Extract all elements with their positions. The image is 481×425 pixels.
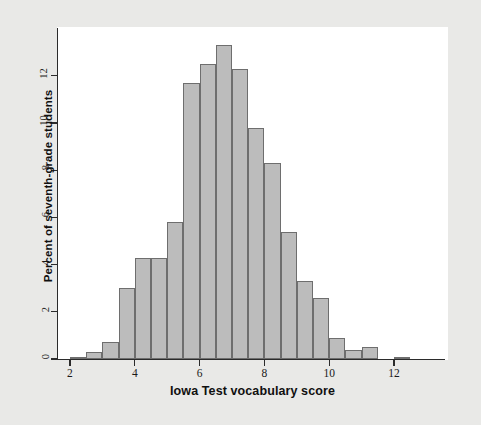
x-tick-label-6: 6 [188, 367, 212, 379]
y-tick-label-4: 4 [0, 257, 48, 268]
y-axis-line [57, 28, 58, 360]
y-axis-title: Percent of seventh-grade students [42, 46, 54, 326]
histogram-bar [102, 342, 118, 359]
x-tick-8 [264, 360, 265, 366]
histogram-bar [119, 288, 135, 359]
histogram-bar [167, 222, 183, 359]
x-axis-title: Iowa Test vocabulary score [57, 384, 448, 398]
histogram-bar [297, 281, 313, 359]
histogram-bar [394, 357, 410, 359]
y-tick-label-text: 0 [40, 354, 51, 359]
x-tick-2 [69, 360, 70, 366]
y-tick-label-12: 12 [0, 68, 48, 79]
histogram-bar [216, 45, 232, 359]
y-tick-label-6: 6 [0, 209, 48, 220]
y-tick-label-10: 10 [0, 115, 48, 126]
x-tick-label-8: 8 [252, 367, 276, 379]
histogram-bar [232, 69, 248, 359]
y-tick-label-8: 8 [0, 162, 48, 173]
x-tick-label-10: 10 [317, 367, 341, 379]
histogram-bar [200, 64, 216, 359]
y-tick-0 [51, 358, 57, 359]
histogram-bar [183, 83, 199, 359]
histogram-bar [151, 258, 167, 359]
x-tick-12 [393, 360, 394, 366]
histogram-bar [329, 338, 345, 359]
x-axis-line [57, 359, 445, 360]
histogram-bar [86, 352, 102, 359]
histogram-bar [135, 258, 151, 359]
histogram-figure: 024681012 24681012 Percent of seventh-gr… [0, 0, 481, 425]
x-tick-label-4: 4 [123, 367, 147, 379]
y-tick-label-2: 2 [0, 304, 48, 315]
histogram-bar [264, 163, 280, 359]
histogram-bar [70, 357, 86, 359]
x-tick-label-2: 2 [58, 367, 82, 379]
histogram-bar [362, 347, 378, 359]
x-tick-10 [329, 360, 330, 366]
histogram-bar [281, 232, 297, 359]
x-tick-6 [199, 360, 200, 366]
histogram-bar [345, 350, 361, 359]
x-tick-label-12: 12 [382, 367, 406, 379]
histogram-bar [248, 128, 264, 359]
y-tick-label-0: 0 [0, 351, 48, 362]
histogram-bar [313, 298, 329, 359]
x-tick-4 [134, 360, 135, 366]
